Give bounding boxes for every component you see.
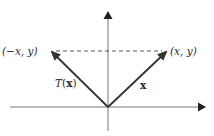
reflection-diagram: (−x, y) (x, y) T(x) x: [0, 0, 214, 136]
x-axis-arrow-icon: [198, 103, 206, 112]
y-axis-arrow-icon: [104, 11, 113, 19]
left-point-label: (−x, y): [2, 45, 38, 57]
right-point-label: (x, y): [170, 45, 197, 57]
transform-close-paren: ): [72, 77, 76, 89]
transform-label: T(x): [55, 77, 77, 89]
vector-x-label: x: [140, 79, 147, 91]
vector-x: [108, 52, 166, 107]
